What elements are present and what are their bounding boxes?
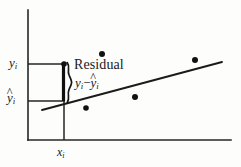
x-value-axis-label: xi bbox=[57, 146, 65, 160]
residual-regression-diagram: yi ^yi xi Residual yi−^yi bbox=[0, 0, 241, 167]
observed-point-marker bbox=[61, 61, 67, 67]
formula-y-fitted-subscript: i bbox=[96, 81, 98, 91]
diagram-canvas bbox=[0, 0, 241, 167]
x-value-subscript: i bbox=[62, 151, 64, 160]
y-observed-subscript: i bbox=[15, 61, 17, 71]
hat-icon: ^ bbox=[7, 86, 13, 98]
data-point bbox=[132, 94, 138, 100]
y-fitted-axis-label: ^yi bbox=[7, 91, 15, 106]
data-point bbox=[83, 105, 89, 111]
data-point bbox=[192, 57, 198, 63]
y-fitted-subscript: i bbox=[13, 96, 15, 106]
hat-icon: ^ bbox=[90, 71, 96, 83]
residual-brace bbox=[67, 63, 71, 103]
residual-formula: yi−^yi bbox=[75, 76, 99, 91]
formula-y-fitted-hat-group: ^y bbox=[91, 76, 97, 89]
residual-label: Residual bbox=[74, 58, 124, 72]
y-observed-axis-label: yi bbox=[9, 56, 17, 71]
y-fitted-hat-group: ^y bbox=[7, 91, 13, 104]
